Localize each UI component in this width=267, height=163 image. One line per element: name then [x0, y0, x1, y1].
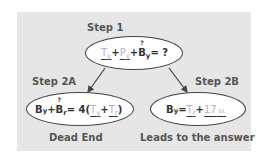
- step1-label: Step 1: [87, 22, 123, 33]
- step2a-caption: Dead End: [49, 132, 103, 143]
- arrow-to-step2b: [169, 68, 187, 92]
- term-br-unknown: ?Br: [56, 104, 67, 117]
- step1-equation: Ty + Py + ?By = ?: [101, 47, 168, 60]
- term-ty: Ty: [101, 47, 111, 60]
- term-by-unknown: ?By: [138, 47, 150, 60]
- arrow-to-step2a: [88, 68, 105, 92]
- step2b-label: Step 2B: [195, 76, 239, 87]
- step2a-equation: By + ?Br = 4( Ty + Tr ): [35, 104, 122, 117]
- step2b-equation: By = Tr + 17 bl.: [166, 104, 226, 117]
- step2b-caption: Leads to the answer: [140, 132, 255, 143]
- term-py: Py: [120, 47, 130, 60]
- step2a-label: Step 2A: [32, 76, 76, 87]
